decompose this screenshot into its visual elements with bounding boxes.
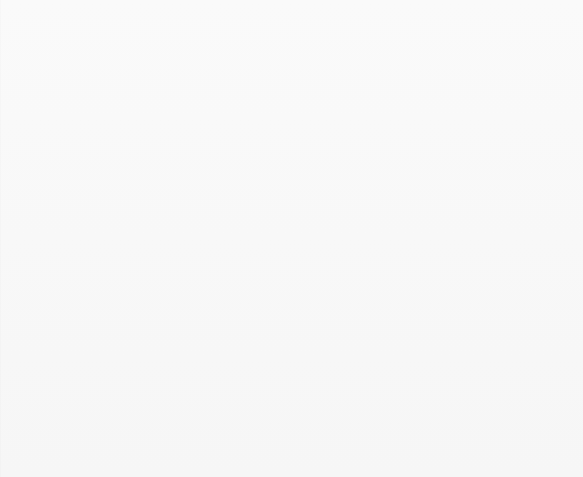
svg-text:-1: -1 xyxy=(131,431,137,438)
svg-text:5: 5 xyxy=(266,431,270,438)
svg-text:-3: -3 xyxy=(23,383,29,390)
svg-text:3: 3 xyxy=(316,48,320,55)
svg-text:-1: -1 xyxy=(422,193,428,200)
svg-text:4: 4 xyxy=(243,193,247,200)
svg-text:-4: -4 xyxy=(64,431,70,438)
svg-text:x: x xyxy=(154,203,158,210)
svg-text:1: 1 xyxy=(176,193,180,200)
svg-text:2: 2 xyxy=(490,193,494,200)
svg-text:4: 4 xyxy=(25,32,29,39)
svg-text:3: 3 xyxy=(316,287,320,294)
svg-text:-3: -3 xyxy=(23,145,29,152)
svg-text:3: 3 xyxy=(512,193,516,200)
svg-text:0: 0 xyxy=(25,96,29,103)
svg-text:4: 4 xyxy=(535,431,539,438)
svg-text:-5: -5 xyxy=(23,177,29,184)
panel-b-plot: -5-4-3-2-1012345-5-4-3-2-1012345xy xyxy=(292,0,583,239)
svg-text:2: 2 xyxy=(316,64,320,71)
svg-text:5: 5 xyxy=(316,16,320,23)
svg-text:-2: -2 xyxy=(23,129,29,136)
svg-text:-1: -1 xyxy=(23,112,29,119)
svg-text:2: 2 xyxy=(199,431,203,438)
panel-a-plot: -5-4-3-2-1012345-5-4-3-2-1012345xy xyxy=(0,0,292,239)
svg-text:1: 1 xyxy=(176,431,180,438)
svg-text:x: x xyxy=(446,203,450,210)
panel-b: -5-4-3-2-1012345-5-4-3-2-1012345xy (B) xyxy=(292,0,583,239)
svg-text:4: 4 xyxy=(243,431,247,438)
svg-text:0: 0 xyxy=(25,335,29,342)
svg-text:3: 3 xyxy=(25,287,29,294)
svg-text:-4: -4 xyxy=(355,193,361,200)
svg-text:0: 0 xyxy=(316,96,320,103)
panel-b-caption: (B) xyxy=(292,222,583,237)
svg-text:-5: -5 xyxy=(314,415,320,422)
svg-text:2: 2 xyxy=(199,193,203,200)
svg-text:-2: -2 xyxy=(108,431,114,438)
svg-text:1: 1 xyxy=(316,80,320,87)
svg-text:-5: -5 xyxy=(23,415,29,422)
svg-text:0: 0 xyxy=(445,431,449,438)
svg-text:4: 4 xyxy=(316,32,320,39)
svg-text:x: x xyxy=(446,441,450,448)
svg-text:-1: -1 xyxy=(131,193,137,200)
svg-text:3: 3 xyxy=(25,48,29,55)
svg-text:-3: -3 xyxy=(314,145,320,152)
svg-text:4: 4 xyxy=(316,271,320,278)
svg-text:y: y xyxy=(10,98,17,102)
svg-text:-2: -2 xyxy=(400,193,406,200)
svg-text:-2: -2 xyxy=(314,129,320,136)
svg-text:-1: -1 xyxy=(314,112,320,119)
svg-text:-4: -4 xyxy=(23,399,29,406)
svg-text:0: 0 xyxy=(445,193,449,200)
panel-d-plot: -5-4-3-2-1012345-5-4-3-2-1012345xy xyxy=(292,239,583,477)
svg-text:y: y xyxy=(302,98,309,102)
svg-text:x: x xyxy=(154,441,158,448)
panel-c: -5-4-3-2-1012345-5-4-3-2-1012345xy (C) xyxy=(0,239,292,477)
panel-a: -5-4-3-2-1012345-5-4-3-2-1012345xy (A) xyxy=(0,0,292,239)
svg-text:-1: -1 xyxy=(314,351,320,358)
svg-text:5: 5 xyxy=(266,193,270,200)
svg-text:y: y xyxy=(10,336,17,340)
svg-text:-5: -5 xyxy=(333,431,339,438)
svg-text:1: 1 xyxy=(468,193,472,200)
svg-text:4: 4 xyxy=(25,271,29,278)
svg-text:-4: -4 xyxy=(314,161,320,168)
svg-text:-2: -2 xyxy=(400,431,406,438)
panel-a-caption: (A) xyxy=(0,222,292,237)
svg-text:2: 2 xyxy=(490,431,494,438)
svg-text:-2: -2 xyxy=(23,367,29,374)
svg-text:-5: -5 xyxy=(314,177,320,184)
svg-text:0: 0 xyxy=(154,193,158,200)
svg-text:-4: -4 xyxy=(314,399,320,406)
svg-text:-3: -3 xyxy=(314,383,320,390)
svg-text:-3: -3 xyxy=(377,193,383,200)
svg-text:-1: -1 xyxy=(23,351,29,358)
svg-text:-2: -2 xyxy=(108,193,114,200)
svg-text:0: 0 xyxy=(316,335,320,342)
svg-text:1: 1 xyxy=(25,319,29,326)
svg-text:5: 5 xyxy=(25,255,29,262)
svg-text:3: 3 xyxy=(221,193,225,200)
svg-text:-4: -4 xyxy=(355,431,361,438)
svg-text:2: 2 xyxy=(25,64,29,71)
svg-text:1: 1 xyxy=(25,80,29,87)
svg-text:4: 4 xyxy=(535,193,539,200)
svg-text:-3: -3 xyxy=(86,431,92,438)
panel-d: -5-4-3-2-1012345-5-4-3-2-1012345xy (D) xyxy=(292,239,583,477)
svg-text:-2: -2 xyxy=(314,367,320,374)
svg-text:-3: -3 xyxy=(86,193,92,200)
svg-text:3: 3 xyxy=(221,431,225,438)
svg-text:-5: -5 xyxy=(41,431,47,438)
svg-text:5: 5 xyxy=(557,431,561,438)
svg-text:2: 2 xyxy=(25,303,29,310)
svg-text:-5: -5 xyxy=(41,193,47,200)
svg-text:-1: -1 xyxy=(422,431,428,438)
svg-text:1: 1 xyxy=(468,431,472,438)
svg-text:-5: -5 xyxy=(333,193,339,200)
svg-text:-4: -4 xyxy=(64,193,70,200)
figure-panel-grid: -5-4-3-2-1012345-5-4-3-2-1012345xy (A) -… xyxy=(0,0,583,477)
svg-text:-4: -4 xyxy=(23,161,29,168)
svg-text:y: y xyxy=(302,336,309,340)
panel-d-caption: (D) xyxy=(292,460,583,475)
svg-text:0: 0 xyxy=(154,431,158,438)
